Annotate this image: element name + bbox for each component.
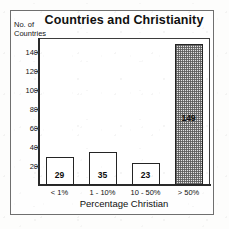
bar: 149 bbox=[175, 44, 203, 185]
bar: 29 bbox=[46, 157, 74, 185]
y-axis-label-line-2: Countries bbox=[14, 29, 46, 38]
y-tick-mark bbox=[35, 147, 39, 148]
bar-value-label: 29 bbox=[55, 170, 64, 180]
chart-figure: Countries and Christianity No. of Countr… bbox=[0, 0, 229, 229]
x-tick-label: 10 - 50% bbox=[130, 188, 160, 197]
y-axis-label-line-1: No. of bbox=[14, 20, 46, 29]
y-tick-mark bbox=[35, 166, 39, 167]
y-tick-mark bbox=[35, 52, 39, 53]
bar-value-label: 149 bbox=[181, 113, 195, 123]
bar: 35 bbox=[89, 152, 117, 185]
x-tick-label: > 50% bbox=[178, 188, 199, 197]
y-axis-label: No. of Countries bbox=[14, 20, 46, 38]
y-tick-mark bbox=[35, 128, 39, 129]
bar-value-label: 23 bbox=[141, 170, 150, 180]
bar: 23 bbox=[132, 163, 160, 185]
y-tick-mark bbox=[35, 90, 39, 91]
y-tick-mark bbox=[35, 71, 39, 72]
y-tick-mark bbox=[35, 109, 39, 110]
x-axis-title: Percentage Christian bbox=[38, 198, 210, 209]
x-tick-label: 1 - 10% bbox=[90, 188, 116, 197]
y-axis-line bbox=[38, 38, 40, 186]
bar-value-label: 35 bbox=[98, 170, 107, 180]
chart-title: Countries and Christianity bbox=[38, 13, 210, 27]
x-tick-label: < 1% bbox=[51, 188, 68, 197]
